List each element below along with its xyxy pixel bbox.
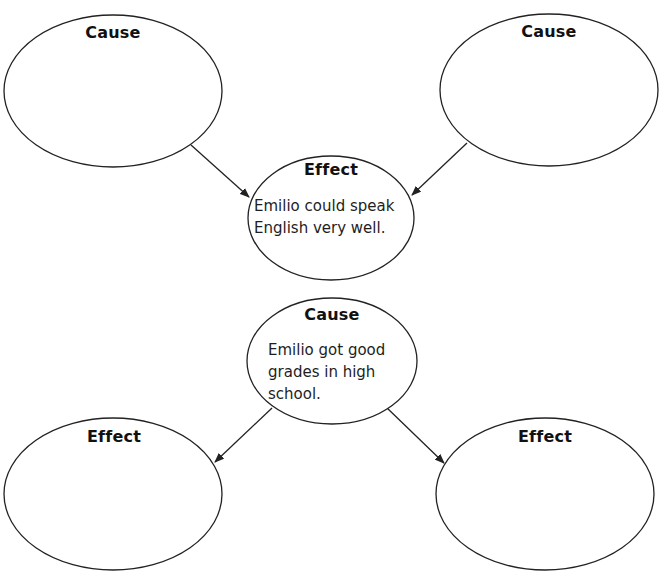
effect-center-text: Emilio could speak English very well. [254, 195, 394, 239]
cause-center-line-1: Emilio got good [268, 339, 385, 361]
cause-center-text: Emilio got good grades in high school. [268, 339, 385, 405]
cause-effect-diagram: Cause Cause Effect Emilio could speak En… [0, 0, 666, 581]
cause-top-left-heading: Cause [63, 24, 163, 42]
effect-bottom-left-heading: Effect [64, 428, 164, 446]
effect-center-line-2: English very well. [254, 217, 394, 239]
cause-center-line-2: grades in high [268, 361, 385, 383]
arrow-cause-center-to-effect-bottom-left [215, 408, 272, 462]
cause-center-line-3: school. [268, 383, 385, 405]
effect-bottom-right-heading: Effect [495, 428, 595, 446]
effect-bottom-right-text[interactable] [462, 462, 628, 542]
arrow-cause-top-left-to-effect [191, 145, 249, 197]
cause-center-heading: Cause [282, 306, 382, 324]
cause-top-right-text[interactable] [466, 60, 632, 140]
effect-bottom-left-text[interactable] [30, 462, 196, 542]
arrow-cause-center-to-effect-bottom-right [386, 407, 444, 463]
effect-center-heading: Effect [281, 161, 381, 179]
arrow-cause-top-right-to-effect [412, 143, 467, 195]
cause-top-right-heading: Cause [499, 23, 599, 41]
effect-center-line-1: Emilio could speak [254, 195, 394, 217]
cause-top-left-text[interactable] [30, 60, 196, 140]
